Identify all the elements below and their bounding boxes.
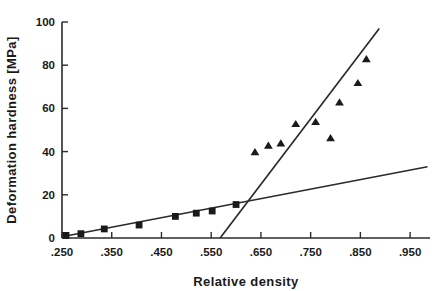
x-axis-tick-labels: .250.350.450.550.650.750.850.950 [51, 246, 421, 258]
x-tick-label: .650 [250, 246, 272, 258]
y-axis-tick-labels: 020406080100 [36, 16, 55, 244]
data-point-square [233, 201, 240, 208]
x-tick-label: .550 [200, 246, 222, 258]
y-tick-label: 80 [42, 59, 55, 71]
y-tick-label: 0 [49, 232, 55, 244]
data-point-square [136, 222, 143, 229]
x-tick-label: .750 [299, 246, 321, 258]
data-point-square [209, 208, 216, 215]
x-tick-label: .950 [399, 246, 421, 258]
y-axis-title: Deformation hardness [MPa] [4, 36, 19, 223]
data-point-square [63, 232, 70, 239]
x-tick-label: .250 [51, 246, 73, 258]
steep-fit-line [220, 28, 379, 238]
data-point-triangle [362, 55, 371, 62]
fit-lines-group [64, 28, 427, 238]
data-point-triangle [335, 98, 344, 105]
chart-canvas: 020406080100 .250.350.450.550.650.750.85… [0, 0, 442, 291]
data-point-triangle [251, 148, 260, 155]
y-tick-label: 40 [42, 146, 55, 158]
data-point-square [77, 230, 84, 237]
data-point-square [172, 213, 179, 220]
data-point-square [193, 210, 200, 217]
x-tick-label: .350 [101, 246, 123, 258]
data-point-triangle [276, 139, 285, 146]
data-point-square [101, 226, 108, 233]
data-point-triangle [264, 142, 273, 149]
y-tick-label: 100 [36, 16, 55, 28]
y-tick-label: 60 [42, 102, 55, 114]
y-axis-ticks [62, 22, 68, 238]
data-point-triangle [326, 134, 335, 141]
data-point-triangle [291, 120, 300, 127]
x-axis-title: Relative density [193, 274, 299, 289]
x-tick-label: .450 [150, 246, 172, 258]
data-point-triangle [353, 79, 362, 86]
x-tick-label: .850 [349, 246, 371, 258]
chart-figure: 020406080100 .250.350.450.550.650.750.85… [0, 0, 442, 291]
x-axis-ticks [62, 232, 410, 238]
data-point-triangle [311, 118, 320, 125]
data-points-group [63, 55, 371, 239]
y-tick-label: 20 [42, 189, 55, 201]
shallow-fit-line [64, 167, 427, 237]
